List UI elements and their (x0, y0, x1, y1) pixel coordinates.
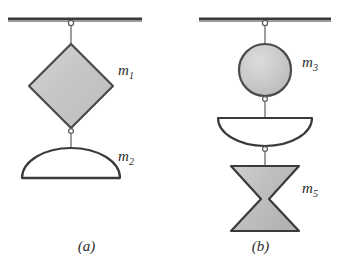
mass-m4-inverted-bowl (218, 118, 312, 146)
mass-label-m5-letter: m (302, 180, 313, 196)
mass-label-m1-letter: m (118, 62, 129, 78)
mass-label-m2-subscript: 2 (129, 156, 134, 167)
eyelet-below-m4 (263, 147, 268, 152)
mass-m1-diamond (29, 44, 113, 128)
mass-m2-dome (22, 148, 120, 178)
mass-label-m2: m2 (118, 148, 134, 167)
eyelet-below-m1 (69, 129, 74, 134)
mass-label-m5: m5 (302, 180, 318, 199)
ceiling-eyelet-a (68, 20, 73, 25)
mass-label-m5-subscript: 5 (313, 188, 318, 199)
ceiling-eyelet-b (262, 20, 267, 25)
panel-b-caption: (b) (174, 238, 347, 255)
eyelet-below-m3 (263, 97, 268, 102)
mass-label-m2-letter: m (118, 148, 129, 164)
panel-b: m3 m5 (b) (174, 0, 347, 269)
mass-label-m3-subscript: 3 (313, 62, 318, 73)
mass-label-m1: m1 (118, 62, 134, 81)
physics-figure: m1 m2 (a) (0, 0, 347, 269)
mass-m5-hourglass (231, 166, 299, 231)
mass-label-m3: m3 (302, 54, 318, 73)
panel-a: m1 m2 (a) (0, 0, 173, 269)
panel-a-caption: (a) (0, 238, 173, 255)
panel-a-diagram (0, 0, 173, 240)
mass-label-m1-subscript: 1 (129, 70, 134, 81)
mass-m3-circle (239, 44, 291, 96)
mass-label-m3-letter: m (302, 54, 313, 70)
panel-b-diagram (174, 0, 347, 240)
